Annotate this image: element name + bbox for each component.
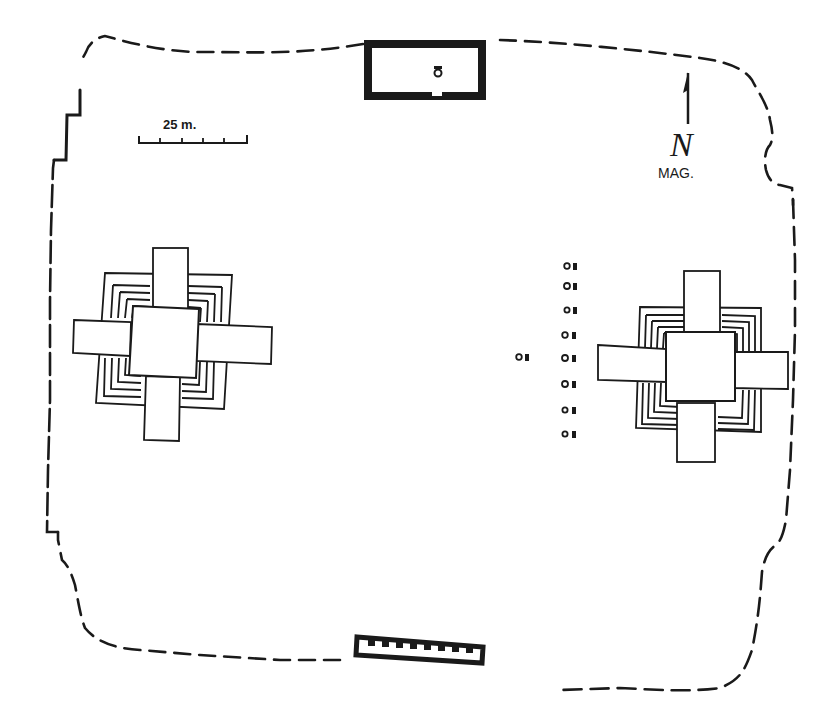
stela-altar-pair xyxy=(562,431,576,438)
stela-altar-pair xyxy=(562,355,576,362)
scale-label: 25 m. xyxy=(163,117,196,132)
stela-altar-pair xyxy=(562,381,576,388)
east-platform xyxy=(598,271,788,462)
site-plan: 25 m. N MAG. xyxy=(0,0,834,722)
stela-altar-pair-outlier xyxy=(516,354,529,361)
stela-altar-row xyxy=(516,263,577,438)
stela-altar-pair xyxy=(564,263,577,270)
stela-altar-pair xyxy=(562,332,576,339)
south-building xyxy=(356,637,483,663)
north-arrow: N MAG. xyxy=(658,72,695,181)
stela-altar-pair xyxy=(564,283,577,290)
west-platform xyxy=(73,248,272,441)
stela-altar-pair xyxy=(564,307,577,314)
north-label: MAG. xyxy=(658,165,694,181)
stela-altar-pair xyxy=(562,407,576,414)
altar-figure-icon xyxy=(434,66,442,77)
north-letter: N xyxy=(669,126,695,163)
scale-bar: 25 m. xyxy=(139,117,247,143)
north-building xyxy=(368,44,482,96)
